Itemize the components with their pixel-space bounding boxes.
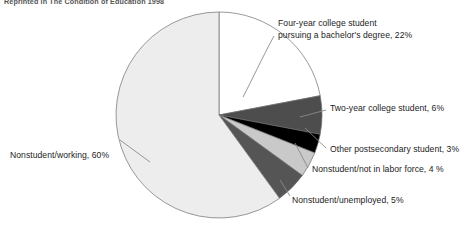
- pie-label-four-year: Four-year college student pursuing a bac…: [278, 18, 428, 41]
- pie-label-two-year: Two-year college student, 6%: [330, 103, 444, 115]
- pie-label-other-postsecondary: Other postsecondary student, 3%: [330, 144, 459, 156]
- pie-label-four-year-line2: pursuing a bachelor's degree, 22%: [278, 30, 428, 42]
- pie-label-nonstudent-not-in-labor-force: Nonstudent/not in labor force, 4 %: [312, 164, 444, 176]
- pie-label-nonstudent-unemployed: Nonstudent/unemployed, 5%: [292, 195, 404, 207]
- pie-slice-group: [116, 12, 322, 218]
- pie-label-nonstudent-working: Nonstudent/working, 60%: [10, 150, 109, 162]
- figure-container: Reprinted in The Condition of Education …: [0, 0, 470, 228]
- pie-label-four-year-line1: Four-year college student: [278, 18, 428, 30]
